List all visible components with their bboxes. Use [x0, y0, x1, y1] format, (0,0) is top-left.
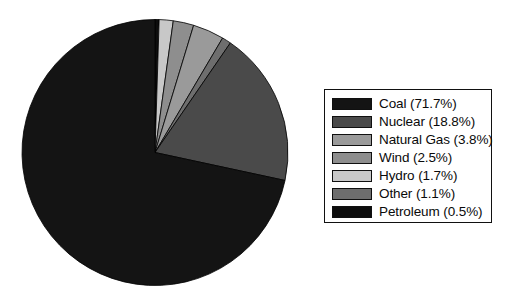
legend-swatch-coal [332, 98, 372, 110]
legend-label-natural-gas: Natural Gas (3.8%) [379, 133, 493, 147]
legend-swatch-other [332, 188, 372, 200]
legend-item-petroleum: Petroleum (0.5%) [332, 203, 485, 221]
legend-label-wind: Wind (2.5%) [379, 151, 452, 165]
legend-label-petroleum: Petroleum (0.5%) [379, 205, 482, 219]
legend-swatch-wind [332, 152, 372, 164]
legend-item-nuclear: Nuclear (18.8%) [332, 113, 485, 131]
legend-item-natural-gas: Natural Gas (3.8%) [332, 131, 485, 149]
legend-swatch-petroleum [332, 206, 372, 218]
legend-item-coal: Coal (71.7%) [332, 95, 485, 113]
pie-chart-figure: Coal (71.7%) Nuclear (18.8%) Natural Gas… [0, 0, 505, 307]
legend-item-hydro: Hydro (1.7%) [332, 167, 485, 185]
chart-legend: Coal (71.7%) Nuclear (18.8%) Natural Gas… [324, 89, 492, 223]
legend-item-wind: Wind (2.5%) [332, 149, 485, 167]
legend-label-hydro: Hydro (1.7%) [379, 169, 457, 183]
legend-label-nuclear: Nuclear (18.8%) [379, 115, 475, 129]
legend-swatch-hydro [332, 170, 372, 182]
pie-slice-group [22, 20, 288, 286]
legend-label-other: Other (1.1%) [379, 187, 455, 201]
legend-swatch-natural-gas [332, 134, 372, 146]
legend-label-coal: Coal (71.7%) [379, 97, 457, 111]
legend-item-other: Other (1.1%) [332, 185, 485, 203]
legend-swatch-nuclear [332, 116, 372, 128]
